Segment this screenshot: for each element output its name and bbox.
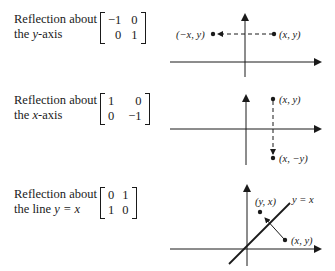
point-label-image-2: (x, −y) (279, 153, 308, 165)
point-label-image-1: (−x, y) (176, 29, 205, 41)
reflection-arrow-3 (265, 218, 284, 239)
point-label-original-2: (x, y) (279, 94, 301, 106)
point-label-original-3: (x, y) (291, 235, 313, 247)
line-label-y-equals-x: y = x (291, 194, 314, 205)
axes-panel-1 (170, 15, 320, 77)
point-original-1 (272, 32, 276, 36)
point-original-3 (283, 238, 287, 242)
point-image-2 (271, 156, 275, 160)
point-label-image-3: (y, x) (255, 196, 276, 208)
point-label-original-1: (x, y) (279, 29, 301, 41)
point-image-1 (211, 32, 215, 36)
point-original-2 (271, 97, 275, 101)
point-image-3 (258, 210, 262, 214)
reflection-diagrams: (x, y) (−x, y) (x, y) (x, −y) y = x (x, … (0, 0, 335, 271)
